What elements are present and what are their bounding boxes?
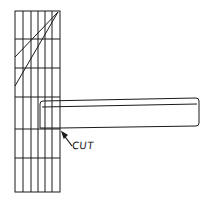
carpentry-diagram [0, 0, 213, 203]
cut-label: CUT [71, 140, 94, 151]
board [40, 98, 199, 128]
grid-panel [15, 11, 60, 192]
cut-arrow-icon [62, 132, 72, 146]
